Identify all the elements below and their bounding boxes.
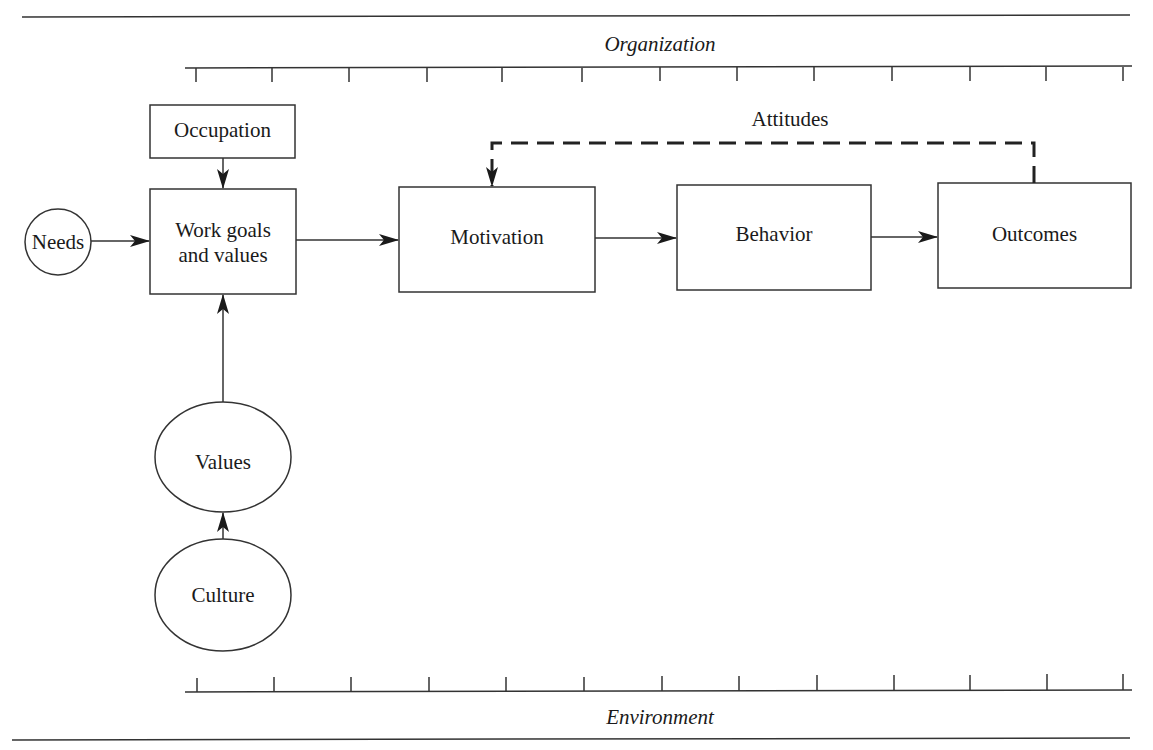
environment-ruler xyxy=(185,674,1132,692)
bottom-rule xyxy=(12,738,1130,740)
outcomes-label: Outcomes xyxy=(938,222,1131,246)
diagram-canvas xyxy=(0,0,1153,750)
organization-label: Organization xyxy=(560,32,760,56)
environment-label: Environment xyxy=(560,705,760,729)
top-rule xyxy=(22,15,1130,17)
values-label: Values xyxy=(155,450,291,474)
work-goals-label-line2: and values xyxy=(150,243,296,267)
motivation-label: Motivation xyxy=(399,225,595,249)
dashed-attitudes-feedback-arrow xyxy=(492,143,1034,186)
attitudes-label: Attitudes xyxy=(690,107,890,131)
culture-label: Culture xyxy=(155,583,291,607)
occupation-label: Occupation xyxy=(150,118,295,142)
needs-label: Needs xyxy=(25,230,91,254)
work-goals-label-line1: Work goals xyxy=(150,218,296,242)
organization-ruler xyxy=(185,66,1132,82)
behavior-label: Behavior xyxy=(677,222,871,246)
